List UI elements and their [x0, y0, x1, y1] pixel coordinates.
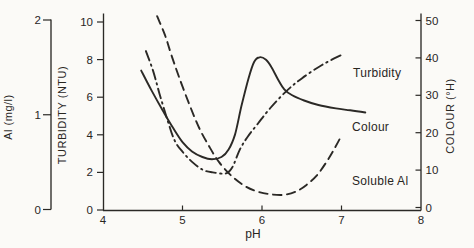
- soluble-al-curve-label: Soluble Al: [352, 174, 408, 188]
- turbidity-tick-label: 2: [87, 166, 93, 178]
- series-turbidity: [146, 51, 342, 174]
- x-tick-label: 8: [418, 214, 424, 226]
- colour-axis-title: COLOUR (°H): [444, 78, 456, 153]
- turbidity-tick-label: 0: [87, 204, 93, 216]
- al-axis-title: Al (mg/l): [2, 94, 14, 139]
- coagulation-ph-chart: Al (mg/l) TURBIDITY (NTU) COLOUR (°H) pH…: [0, 0, 474, 248]
- turbidity-tick-label: 4: [87, 129, 94, 141]
- x-tick-label: 4: [100, 214, 107, 226]
- turbidity-tick-label: 8: [87, 54, 93, 66]
- series-colour: [141, 57, 365, 159]
- x-axis-title: pH: [245, 227, 260, 241]
- x-tick-label: 6: [259, 214, 265, 226]
- colour-tick-label: 30: [426, 89, 439, 101]
- chart-canvas: Al (mg/l) TURBIDITY (NTU) COLOUR (°H) pH…: [0, 0, 474, 248]
- turbidity-tick-label: 6: [87, 91, 93, 103]
- x-tick-label: 7: [338, 214, 344, 226]
- al-tick-label: 1: [35, 109, 41, 121]
- colour-tick-label: 10: [426, 164, 439, 176]
- colour-tick-label: 20: [426, 127, 439, 139]
- series-soluble-al: [157, 16, 341, 195]
- colour-tick-label: 0: [426, 202, 432, 214]
- al-tick-label: 0: [35, 204, 41, 216]
- al-tick-label: 2: [35, 14, 41, 26]
- turbidity-axis-title: TURBIDITY (NTU): [56, 66, 68, 164]
- turbidity-curve-label: Turbidity: [353, 66, 401, 80]
- colour-tick-label: 50: [426, 15, 439, 27]
- turbidity-tick-label: 10: [80, 16, 93, 28]
- x-tick-label: 5: [179, 214, 185, 226]
- colour-curve-label: Colour: [352, 120, 389, 134]
- colour-tick-label: 40: [426, 52, 439, 64]
